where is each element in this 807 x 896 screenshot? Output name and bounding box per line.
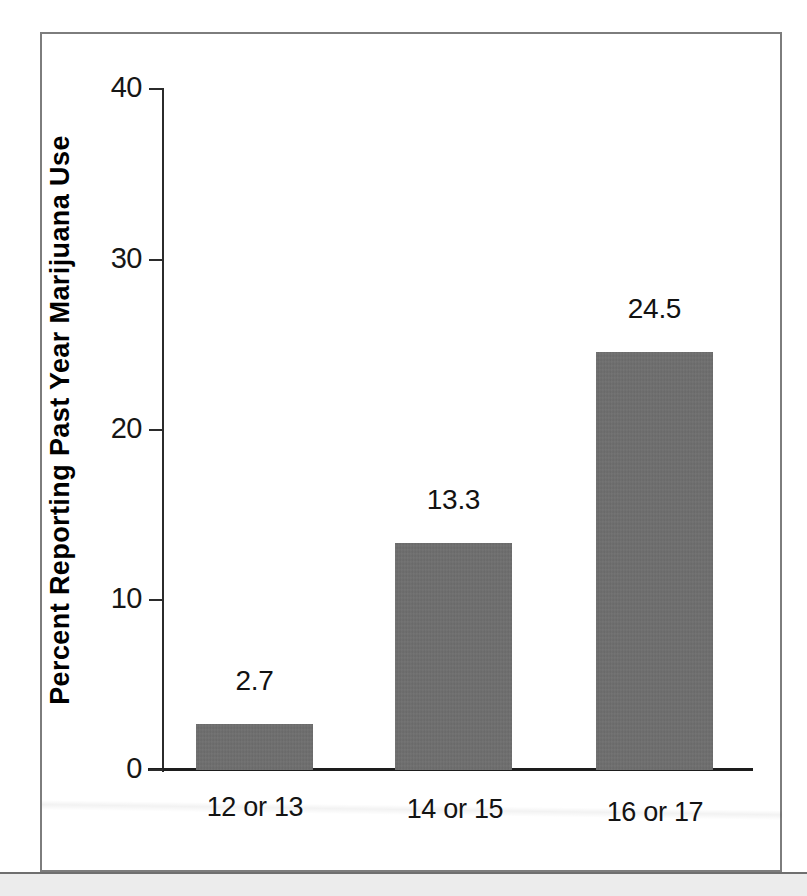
scanned-page: 0 10 20 30 40 Percent Reporting Past Yea…	[0, 0, 807, 896]
page-bottom-band	[0, 874, 807, 896]
figure-frame	[40, 32, 782, 872]
